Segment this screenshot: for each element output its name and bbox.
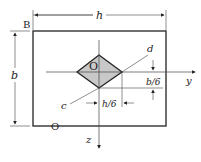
section-diagram: h b B y z d c O b/6 h/6 O bbox=[0, 0, 201, 162]
line-d bbox=[122, 55, 148, 72]
label-origin-O: O bbox=[51, 121, 59, 132]
label-b: b bbox=[11, 69, 18, 82]
label-y-axis: y bbox=[185, 75, 192, 86]
dimension-b: b bbox=[10, 31, 30, 126]
label-h: h bbox=[96, 9, 103, 22]
label-center-O: O bbox=[89, 60, 98, 73]
label-corner-B: B bbox=[23, 19, 30, 30]
label-b6: b/6 bbox=[146, 77, 161, 87]
core-diamond bbox=[77, 55, 122, 88]
label-d: d bbox=[147, 43, 153, 54]
label-z-axis: z bbox=[85, 134, 92, 145]
label-h6: h/6 bbox=[102, 99, 117, 109]
dimension-h: h bbox=[33, 9, 166, 30]
line-c bbox=[70, 88, 99, 104]
label-c: c bbox=[61, 100, 67, 111]
